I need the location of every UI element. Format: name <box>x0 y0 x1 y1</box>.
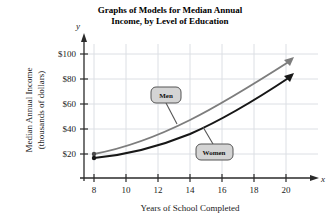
y-tick-label-20: $20 <box>63 149 77 159</box>
x-tick-label-20: 20 <box>282 185 292 195</box>
y-axis <box>81 33 87 181</box>
chart-svg: Graphs of Models for Median Annual Incom… <box>0 0 328 222</box>
y-axis-arrowhead <box>81 33 87 42</box>
x-tick-label-14: 14 <box>186 185 196 195</box>
y-tick-label-60: $60 <box>63 99 77 109</box>
chart-title-line1: Graphs of Models for Median Annual <box>98 5 243 15</box>
y-axis-caption-line2: (thousands of dollars) <box>36 71 46 150</box>
x-tick-label-12: 12 <box>154 185 163 195</box>
figure-container: Graphs of Models for Median Annual Incom… <box>0 0 328 222</box>
callout-men: Men <box>151 87 181 124</box>
women-callout-label: Women <box>203 149 226 157</box>
x-tick-label-10: 10 <box>122 185 132 195</box>
series-line-men <box>92 57 294 156</box>
y-tick-label-100: $100 <box>58 49 77 59</box>
men-callout-label: Men <box>159 92 173 100</box>
x-tick-label-16: 16 <box>218 185 228 195</box>
x-axis <box>80 175 319 181</box>
grid-vertical <box>94 44 286 178</box>
x-axis-variable-label: x <box>320 174 325 184</box>
grid-horizontal <box>84 54 318 154</box>
chart-title-line2: Income, by Level of Education <box>111 16 228 26</box>
callout-women: Women <box>196 127 233 160</box>
y-axis-caption-line1: Median Annual Income <box>24 68 34 153</box>
x-axis-arrowhead <box>310 175 319 181</box>
women-curve-start-dot <box>92 156 96 160</box>
women-callout-leader-line <box>203 127 213 144</box>
y-tick-label-40: $40 <box>63 124 77 134</box>
men-callout-leader-line <box>166 103 177 124</box>
x-tick-label-18: 18 <box>250 185 260 195</box>
x-tick-label-8: 8 <box>92 185 97 195</box>
men-curve-start-dot <box>92 152 96 156</box>
y-axis-variable-label: y <box>75 21 80 31</box>
y-tick-label-80: $80 <box>63 74 77 84</box>
x-axis-caption: Years of School Completed <box>141 203 240 213</box>
